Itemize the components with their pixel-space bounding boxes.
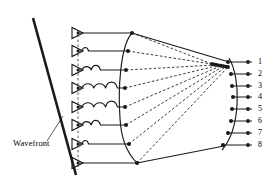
output-arc-curve xyxy=(222,58,237,150)
output-terminal-dot xyxy=(246,143,250,147)
beam-ray xyxy=(125,65,219,88)
beam-ray xyxy=(128,51,214,64)
array-element-channel xyxy=(72,158,137,169)
delay-line-trace xyxy=(78,82,125,88)
output-port-label: 4 xyxy=(258,93,262,101)
output-port-node xyxy=(221,143,225,147)
wavefront-label: Wavefront xyxy=(13,139,50,148)
array-element-channels xyxy=(72,28,137,169)
output-terminal-dot xyxy=(246,72,250,76)
envelope-bottom-edge xyxy=(137,146,224,163)
beam-ray-fan xyxy=(125,33,228,163)
output-terminal-dot xyxy=(246,95,250,99)
output-terminal-dot xyxy=(246,131,250,135)
output-port-node xyxy=(226,60,230,64)
phased-array-diagram xyxy=(0,0,278,189)
beam-ray xyxy=(125,66,221,107)
delay-line-trace xyxy=(78,65,126,70)
output-terminal-dot xyxy=(246,119,250,123)
output-port-node xyxy=(230,84,234,88)
output-port-node xyxy=(229,72,233,76)
output-port-label: 1 xyxy=(258,58,262,66)
output-terminal-dot xyxy=(246,107,250,111)
wavefront-group xyxy=(33,18,76,175)
output-port-label: 7 xyxy=(258,129,262,137)
beam-ray xyxy=(126,66,223,125)
output-terminal-dot xyxy=(246,60,250,64)
beam-ray xyxy=(132,33,212,64)
array-element-channel xyxy=(72,101,125,112)
array-element-channel xyxy=(72,65,126,76)
delay-line-trace xyxy=(78,141,129,144)
delay-line-trace xyxy=(78,101,125,107)
figure-canvas: Wavefront 12345678 xyxy=(0,0,278,189)
beam-ray xyxy=(137,67,228,163)
array-element-channel xyxy=(72,46,128,57)
output-terminal-dot xyxy=(246,84,250,88)
output-port-node xyxy=(226,131,230,135)
output-port-label: 8 xyxy=(258,141,262,149)
output-port-label: 3 xyxy=(258,82,262,90)
output-port-label: 2 xyxy=(258,70,262,78)
array-element-channel xyxy=(72,139,129,150)
delay-line-trace xyxy=(78,48,128,51)
wavefront-line xyxy=(33,18,76,175)
output-port-group xyxy=(221,60,252,147)
delay-line-trace xyxy=(78,120,126,125)
envelope-top-edge xyxy=(132,33,229,62)
beam-ray xyxy=(129,67,226,144)
array-element-channel xyxy=(72,120,126,131)
output-port-label: 5 xyxy=(258,105,262,113)
array-element-channel xyxy=(72,28,132,39)
focal-dot xyxy=(226,65,230,69)
output-port-label: 6 xyxy=(258,117,262,125)
output-port-node xyxy=(230,107,234,111)
output-port-node xyxy=(231,95,235,99)
output-port-node xyxy=(229,119,233,123)
array-element-channel xyxy=(72,82,125,93)
